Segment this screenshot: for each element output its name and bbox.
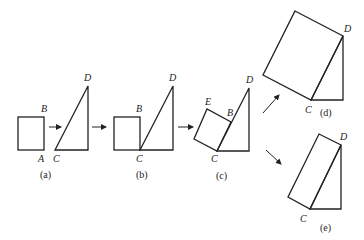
triangle-d <box>311 36 343 100</box>
triangle-a <box>55 86 88 150</box>
caption-b: (b) <box>136 169 148 181</box>
panel-d: D C (d) <box>263 11 352 119</box>
label-B: B <box>227 107 233 118</box>
rectangle-e <box>288 134 341 209</box>
transformation-diagram: B A C D (a) B C D (b) E B C D (c) D C (d… <box>0 0 364 240</box>
panel-a: B A C D (a) <box>18 72 92 181</box>
label-B: B <box>136 103 142 114</box>
triangle-e <box>310 145 341 209</box>
triangle-c <box>217 88 249 151</box>
square-d <box>263 11 343 100</box>
label-D: D <box>339 131 348 142</box>
arrow-icon <box>266 150 281 164</box>
caption-e: (e) <box>320 222 331 234</box>
label-A: A <box>37 153 45 164</box>
triangle-b <box>140 86 173 150</box>
square-b <box>114 117 140 150</box>
label-C: C <box>305 104 312 115</box>
caption-a: (a) <box>40 169 51 181</box>
label-E: E <box>204 96 211 107</box>
label-C: C <box>211 153 218 164</box>
panel-c: E B C D (c) <box>194 74 254 182</box>
label-C: C <box>136 153 143 164</box>
square-a <box>18 117 44 150</box>
panel-b: B C D (b) <box>114 72 177 181</box>
caption-c: (c) <box>216 170 227 182</box>
label-D: D <box>168 72 177 83</box>
label-D: D <box>83 72 92 83</box>
label-D: D <box>245 74 254 85</box>
arrow-icon <box>263 95 279 113</box>
panel-e: D C (e) <box>288 131 348 234</box>
rotated-square-c <box>194 109 231 151</box>
label-C: C <box>53 153 60 164</box>
label-C: C <box>300 213 307 224</box>
label-D: D <box>343 23 352 34</box>
label-B: B <box>41 103 47 114</box>
caption-d: (d) <box>320 107 332 119</box>
